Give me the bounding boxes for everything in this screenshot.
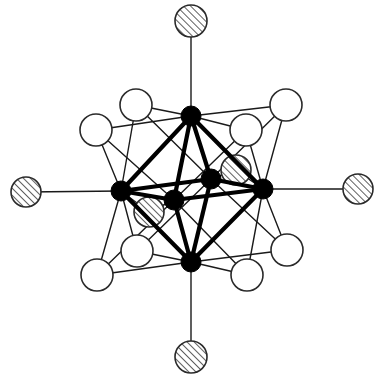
open-ligand-atom-icon <box>81 259 113 291</box>
open-ligand-atom-icon <box>271 234 303 266</box>
open-ligand-atom-icon <box>120 89 152 121</box>
metal-atom-icon <box>181 106 201 126</box>
thin-bonds-layer <box>26 21 358 357</box>
cluster-diagram: Octahedral M6X12 cluster with terminal l… <box>0 0 381 382</box>
metal-atom-icon <box>164 190 184 210</box>
open-ligand-atom-icon <box>230 114 262 146</box>
hatched-ligand-atom-icon <box>11 177 41 207</box>
hatched-ligand-atom-icon <box>175 5 207 37</box>
metal-atom-icon <box>201 169 221 189</box>
metal-atom-icon <box>111 181 131 201</box>
open-ligand-atom-icon <box>270 89 302 121</box>
hatched-ligand-atom-icon <box>343 174 373 204</box>
metal-metal-bond-line <box>174 189 263 200</box>
open-ligand-atom-icon <box>80 114 112 146</box>
molecular-structure-svg <box>0 0 381 382</box>
open-ligand-atom-icon <box>121 235 153 267</box>
open-ligand-atom-icon <box>231 259 263 291</box>
hatched-ligand-atom-icon <box>134 197 164 227</box>
metal-atom-icon <box>253 179 273 199</box>
hatched-ligand-atom-icon <box>175 341 207 373</box>
metal-atom-icon <box>181 252 201 272</box>
metal-metal-bond-line <box>121 179 211 191</box>
